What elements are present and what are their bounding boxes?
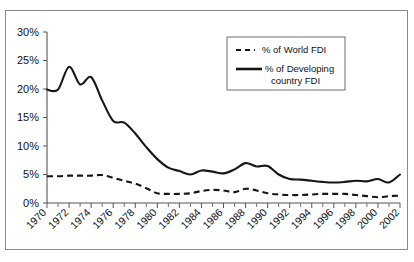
x-tick-label: 1974 [68,206,93,231]
x-tick-label: 1996 [310,206,335,231]
legend-label-world-fdi: % of World FDI [262,44,326,55]
x-tick-label: 1986 [200,206,225,231]
y-axis-ticks [43,32,47,203]
x-tick-label: 2000 [354,206,379,231]
x-tick-label: 1970 [23,206,48,231]
y-tick-label: 5% [23,168,39,180]
legend-label-developing-country-fdi-line2: country FDI [271,75,320,86]
chart-screenshot: 0%5%10%15%20%25%30% 19701972197419761978… [0,0,414,262]
x-tick-label: 2002 [376,206,401,231]
x-tick-label: 1980 [134,206,159,231]
y-tick-label: 25% [17,54,39,66]
x-tick-label: 1984 [178,206,203,231]
x-tick-label: 1994 [288,206,313,231]
x-tick-label: 1992 [266,206,291,231]
y-axis-tick-labels: 0%5%10%15%20%25%30% [17,26,39,209]
y-tick-label: 20% [17,83,39,95]
series-line-developing-country-fdi [47,67,400,183]
x-tick-label: 1988 [222,206,247,231]
y-tick-label: 15% [17,111,39,123]
y-tick-label: 30% [17,26,39,38]
x-tick-label: 1990 [244,206,269,231]
y-tick-label: 10% [17,140,39,152]
x-tick-label: 1982 [156,206,181,231]
x-tick-label: 1998 [332,206,357,231]
x-tick-label: 1976 [90,206,115,231]
legend-label-developing-country-fdi-line1: % of Developing [265,63,334,74]
x-tick-label: 1978 [112,206,137,231]
x-tick-label: 1972 [45,206,70,231]
y-tick-label: 0% [23,197,39,209]
chart-legend: % of World FDI % of Developing country F… [227,37,345,90]
line-chart: 0%5%10%15%20%25%30% 19701972197419761978… [0,0,414,262]
x-axis-tick-labels: 1970197219741976197819801982198419861988… [23,206,401,231]
series-line-world-fdi [47,175,400,197]
